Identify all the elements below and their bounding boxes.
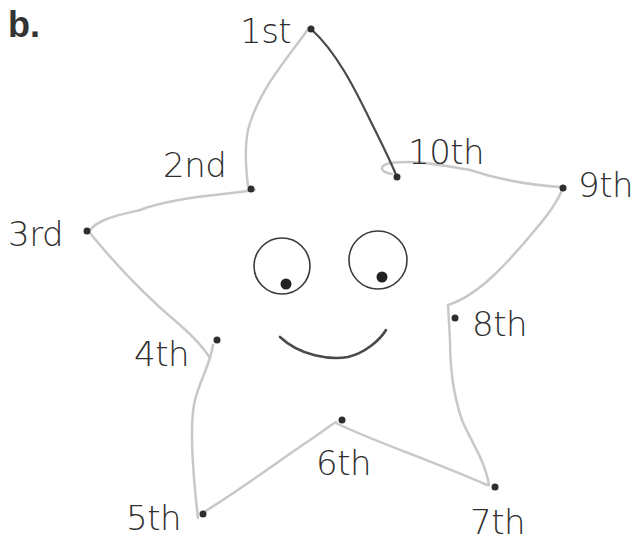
label-1st: 1st (240, 14, 291, 48)
dot-7th (492, 484, 499, 491)
dot-8th (452, 315, 459, 322)
trace-2-3 (90, 190, 255, 230)
dot-3rd (84, 228, 91, 235)
trace-8-9 (448, 190, 562, 305)
dot-6th (339, 417, 346, 424)
label-8th: 8th (472, 307, 527, 341)
label-5th: 5th (126, 501, 181, 535)
dot-4th (214, 337, 221, 344)
dot-2nd (248, 186, 255, 193)
label-3rd: 3rd (8, 217, 63, 251)
dot-5th (200, 511, 207, 518)
left-pupil (281, 279, 292, 290)
label-10th: 10th (408, 135, 484, 169)
dot-9th (560, 185, 567, 192)
label-7th: 7th (470, 505, 525, 538)
right-pupil (377, 272, 388, 283)
trace-1-2 (246, 28, 309, 186)
label-4th: 4th (134, 337, 189, 371)
star-face (254, 231, 407, 358)
dark-trace-1-10 (311, 29, 397, 177)
dot-1st (308, 26, 315, 33)
dot-10th (394, 174, 401, 181)
label-2nd: 2nd (163, 148, 226, 182)
smile-mouth (280, 330, 386, 358)
label-6th: 6th (316, 446, 371, 480)
label-9th: 9th (578, 168, 633, 202)
trace-4-5 (192, 345, 213, 518)
